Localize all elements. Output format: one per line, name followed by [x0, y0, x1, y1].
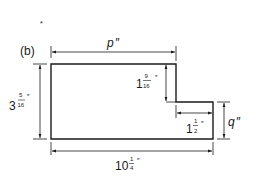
- label-step-height-den: 16: [143, 83, 150, 89]
- panel-label: (b): [20, 44, 35, 58]
- label-step-height-num: 9: [145, 73, 149, 79]
- label-step-width-whole: 1: [186, 122, 193, 136]
- label-overall-height-den: 16: [18, 102, 25, 108]
- label-q: q″: [228, 115, 241, 129]
- dimension-top-width: p″: [51, 36, 176, 61]
- label-overall-height-num: 5: [19, 92, 23, 98]
- label-p: p″: [106, 36, 120, 50]
- label-overall-height-whole: 3: [9, 99, 16, 113]
- dimension-diagram: * (b) p″ 3 5 16 ″ 1 9 16 ″ 1 1 2: [0, 0, 258, 187]
- label-bottom-width-num: 1: [130, 156, 134, 162]
- dimension-step-height: 1 9 16 ″: [136, 65, 176, 102]
- stray-mark: *: [40, 20, 43, 27]
- label-step-height-whole: 1: [136, 77, 143, 91]
- dimension-bottom-width: 10 1 4 ″: [51, 142, 213, 173]
- dimension-right-height: q″: [217, 102, 241, 139]
- dimension-step-width: 1 1 2 ″: [176, 105, 212, 136]
- dimension-overall-height: 3 5 16 ″: [9, 64, 47, 139]
- label-bottom-width-den: 4: [130, 165, 134, 171]
- label-bottom-width-unit: ″: [137, 157, 140, 164]
- label-bottom-width-whole: 10: [115, 159, 129, 173]
- label-step-width-num: 1: [194, 118, 198, 124]
- label-overall-height-unit: ″: [27, 93, 30, 100]
- label-step-width-unit: ″: [201, 120, 204, 127]
- label-step-width-den: 2: [194, 128, 198, 134]
- label-step-height-unit: ″: [155, 74, 158, 81]
